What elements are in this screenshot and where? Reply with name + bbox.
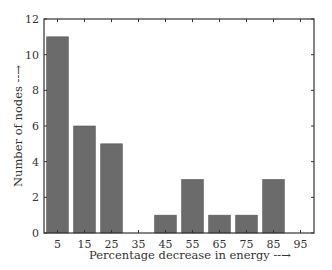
y-tick-label: 6 (32, 120, 39, 133)
histogram-chart: 5152535455565758595 024681012 Percentage… (0, 0, 332, 270)
y-tick-label: 4 (32, 156, 39, 169)
bar-15 (74, 126, 96, 233)
x-tick-label: 5 (54, 238, 61, 251)
y-tick-label: 10 (25, 49, 39, 62)
bar-5 (47, 37, 69, 233)
x-tick-label: 95 (294, 238, 308, 251)
bar-25 (101, 144, 123, 233)
bar-85 (263, 180, 285, 234)
bar-55 (182, 180, 204, 234)
y-tick-label: 12 (25, 13, 39, 26)
x-axis-label: Percentage decrease in energy --→ (89, 248, 291, 262)
bars (47, 37, 285, 233)
y-axis-label: Number of nodes --→ (11, 65, 25, 187)
y-tick-label: 8 (32, 84, 39, 97)
y-tick-label: 2 (32, 191, 39, 204)
y-tick-label: 0 (32, 227, 39, 240)
